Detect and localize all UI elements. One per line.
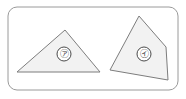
label-i-text: ㋑ xyxy=(140,49,149,59)
figure-canvas: ㋐ ㋑ xyxy=(0,0,186,99)
geometry-figure-svg: ㋐ ㋑ xyxy=(0,0,186,99)
label-i-group: ㋑ xyxy=(137,47,151,61)
label-a-group: ㋐ xyxy=(57,47,71,61)
label-a-text: ㋐ xyxy=(60,49,69,59)
